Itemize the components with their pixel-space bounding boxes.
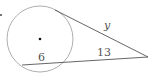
secant-external-label: 13 — [97, 46, 111, 59]
stray-dot — [0, 14, 2, 16]
circle-center — [39, 38, 42, 41]
diagram-canvas: y 13 6 — [0, 0, 155, 76]
secant-internal-label: 6 — [38, 51, 45, 64]
tangent-label: y — [103, 19, 111, 32]
geometry-figure: y 13 6 — [0, 0, 155, 76]
